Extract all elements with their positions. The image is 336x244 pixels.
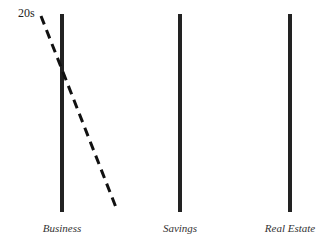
axis-label-real-estate: Real Estate [265, 222, 315, 234]
axis-label-business: Business [43, 222, 82, 234]
parallel-chart [0, 0, 336, 244]
series-20s-line [41, 16, 117, 210]
series-tag-20s: 20s [18, 6, 35, 21]
axis-label-savings: Savings [163, 222, 197, 234]
